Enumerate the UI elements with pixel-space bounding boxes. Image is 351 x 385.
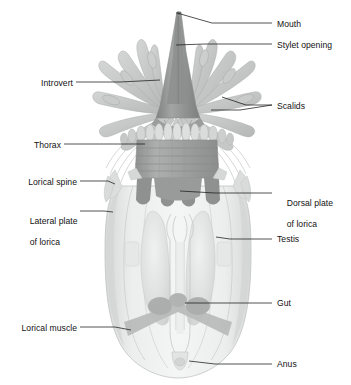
label-lateral-plate-line2: of lorica — [30, 237, 60, 247]
label-scalids: Scalids — [277, 101, 305, 111]
label-dorsal-plate-of-lorica: Dorsal plate of lorica — [277, 188, 333, 240]
anatomy-diagram: Mouth Stylet opening Scalids Dorsal plat… — [0, 0, 351, 385]
label-mouth: Mouth — [277, 19, 301, 29]
label-dorsal-plate-line1: Dorsal plate — [287, 198, 333, 208]
label-stylet-opening: Stylet opening — [277, 40, 332, 50]
label-lateral-plate-line1: Lateral plate — [30, 216, 78, 226]
thorax — [135, 140, 219, 178]
leader-stylet-opening — [176, 44, 272, 45]
label-lorical-spine: Lorical spine — [0, 177, 77, 187]
label-anus: Anus — [277, 359, 297, 369]
label-lateral-plate-of-lorica: Lateral plate of lorica — [20, 206, 78, 258]
label-testis: Testis — [277, 234, 299, 244]
label-introvert: Introvert — [0, 78, 73, 88]
label-thorax: Thorax — [0, 140, 61, 150]
leader-mouth — [177, 13, 272, 23]
label-dorsal-plate-line2: of lorica — [287, 219, 317, 229]
label-lorical-muscle: Lorical muscle — [0, 323, 77, 333]
label-gut: Gut — [277, 298, 291, 308]
